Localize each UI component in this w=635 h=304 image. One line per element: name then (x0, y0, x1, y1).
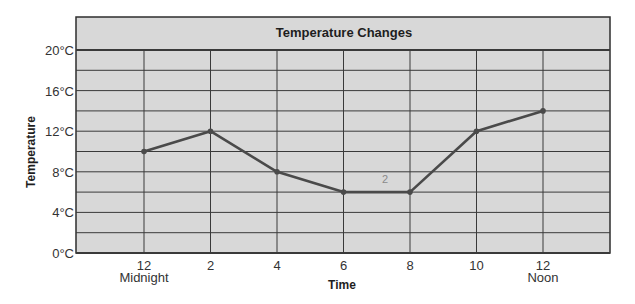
data-point (208, 128, 214, 134)
x-tick-sublabel: Midnight (119, 270, 169, 285)
data-point (141, 149, 147, 155)
y-tick-label: 8°C (52, 165, 74, 180)
chart-title: Temperature Changes (276, 25, 412, 40)
y-tick-label: 4°C (52, 205, 74, 220)
data-point (540, 108, 546, 114)
data-point (407, 189, 413, 195)
x-tick-label: 4 (273, 258, 280, 273)
x-axis-label: Time (328, 278, 356, 292)
y-tick-label: 12°C (45, 124, 74, 139)
y-axis-ticks: 0°C4°C8°C12°C16°C20°C (45, 43, 74, 261)
y-tick-label: 0°C (52, 246, 74, 261)
y-axis-label: Temperature (24, 116, 38, 188)
x-tick-label: 8 (406, 258, 413, 273)
y-tick-label: 20°C (45, 43, 74, 58)
x-tick-sublabel: Noon (527, 270, 558, 285)
y-tick-label: 16°C (45, 84, 74, 99)
pencil-annotation: 2 (382, 173, 388, 185)
x-tick-label: 2 (207, 258, 214, 273)
x-tick-label: 10 (469, 258, 483, 273)
data-point (341, 189, 347, 195)
temperature-line-chart: Temperature Changes 0°C4°C8°C12°C16°C20°… (0, 0, 635, 304)
data-point (274, 169, 280, 175)
data-point (474, 128, 480, 134)
x-tick-label: 6 (340, 258, 347, 273)
